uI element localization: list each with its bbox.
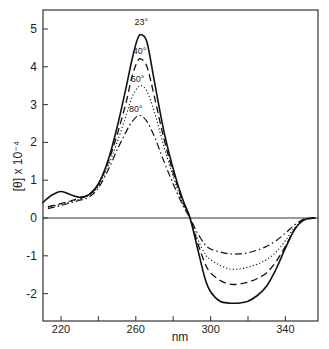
y-tick-label: 4 bbox=[30, 60, 37, 74]
y-tick-label: -1 bbox=[26, 249, 37, 263]
series-line-60deg bbox=[48, 85, 315, 269]
x-axis-label: nm bbox=[172, 330, 189, 344]
y-axis-label: [θ] x 10⁻⁴ bbox=[11, 141, 25, 192]
y-tick-label: 2 bbox=[30, 135, 37, 149]
axes: -2-1012345220260300340 bbox=[26, 22, 294, 335]
data-series bbox=[42, 34, 315, 303]
cd-spectrum-chart: -2-1012345220260300340 23°40°60°80° nm [… bbox=[0, 0, 329, 349]
y-tick-label: -2 bbox=[26, 287, 37, 301]
peak-label: 60° bbox=[131, 74, 145, 84]
x-tick-label: 260 bbox=[127, 323, 145, 335]
plot-border bbox=[43, 10, 318, 321]
series-line-23deg bbox=[42, 34, 315, 303]
peak-label: 80° bbox=[129, 104, 143, 114]
x-tick-label: 340 bbox=[276, 323, 294, 335]
series-line-80deg bbox=[48, 115, 315, 254]
plot-frame bbox=[43, 10, 318, 321]
series-line-40deg bbox=[48, 59, 315, 285]
y-tick-label: 1 bbox=[30, 173, 37, 187]
y-tick-label: 0 bbox=[30, 211, 37, 225]
x-tick-label: 300 bbox=[201, 323, 219, 335]
y-tick-label: 3 bbox=[30, 98, 37, 112]
x-tick-label: 220 bbox=[52, 323, 70, 335]
peak-labels: 23°40°60°80° bbox=[129, 17, 149, 114]
peak-label: 23° bbox=[135, 17, 149, 27]
y-tick-label: 5 bbox=[30, 22, 37, 36]
peak-label: 40° bbox=[133, 46, 147, 56]
